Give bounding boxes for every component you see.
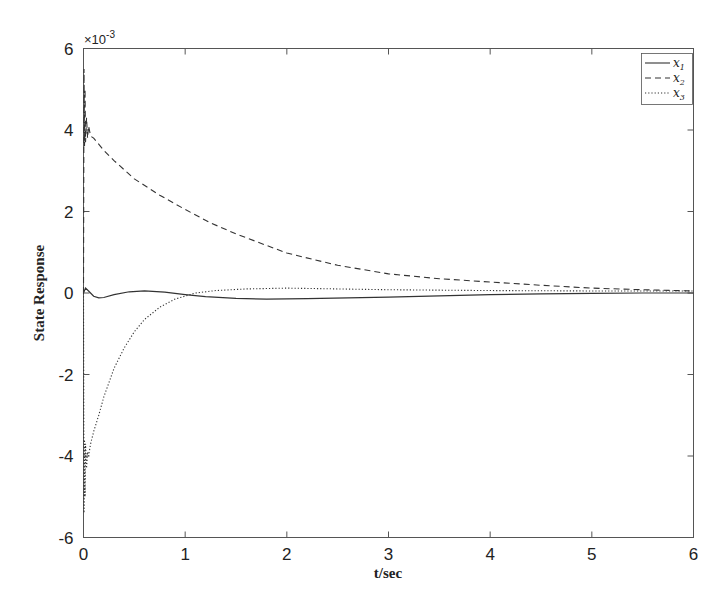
y-tick-label: 4 [64,121,73,140]
y-tick-labels: -6-4-20246 [58,40,73,548]
x-tick-label: 2 [282,545,291,564]
y-exponent-label: ×10-3 [84,29,115,47]
x-tick-label: 6 [689,545,698,564]
x-tick-label: 0 [79,545,88,564]
legend: x1x2x3 [642,54,693,105]
x-tick-label: 5 [587,545,596,564]
x-axis-title: t/sec [374,565,403,581]
y-tick-label: 6 [64,40,73,59]
x-tick-labels: 0123456 [79,545,698,564]
x-tick-label: 4 [485,545,494,564]
y-tick-label: 0 [64,284,73,303]
x-tick-label: 3 [384,545,393,564]
y-tick-label: -4 [58,447,73,466]
y-axis-title: State Response [31,245,47,342]
y-tick-label: 2 [64,203,73,222]
y-tick-label: -6 [58,529,73,548]
x-tick-label: 1 [180,545,189,564]
state-response-chart: 0123456 -6-4-20246 ×10-3 t/sec State Res… [0,0,728,598]
y-tick-label: -2 [58,366,73,385]
